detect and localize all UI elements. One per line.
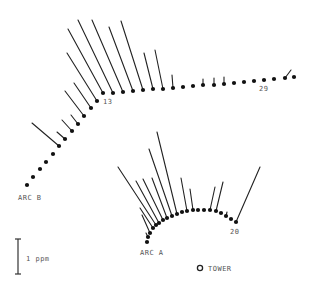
concentration-vector: [32, 123, 59, 146]
sample-point: [145, 240, 149, 244]
scale-bar-label: 1 ppm: [26, 255, 50, 263]
scale-bar: 1 ppm: [15, 239, 50, 274]
concentration-vector: [190, 189, 193, 210]
concentration-vector: [121, 21, 143, 90]
sample-point: [161, 218, 165, 222]
sample-point: [283, 76, 287, 80]
sample-point: [165, 216, 169, 220]
sample-point: [229, 217, 233, 221]
sample-point: [272, 77, 276, 81]
sample-point: [63, 137, 67, 141]
sample-point: [212, 83, 216, 87]
sample-point: [252, 79, 256, 83]
sample-point: [191, 84, 195, 88]
sample-point: [57, 144, 61, 148]
concentration-vector: [236, 167, 260, 222]
sample-point: [185, 209, 189, 213]
sample-point: [219, 211, 223, 215]
arc-b-point-label-13: 13: [103, 98, 112, 106]
concentration-vector: [216, 182, 223, 211]
sample-point: [242, 80, 246, 84]
open-circle-icon: [197, 265, 202, 270]
sample-point: [196, 208, 200, 212]
tower-label: TOWER: [208, 265, 232, 273]
sample-point: [146, 235, 150, 239]
sample-point: [181, 85, 185, 89]
concentration-vector: [210, 187, 215, 210]
sample-point: [131, 89, 135, 93]
concentration-vector: [62, 120, 72, 131]
sample-point: [157, 221, 161, 225]
sample-point: [208, 208, 212, 212]
sample-point: [95, 99, 99, 103]
sample-point: [44, 160, 48, 164]
sample-point: [224, 214, 228, 218]
arc-a-label: ARC A: [140, 249, 164, 257]
concentration-vector: [155, 50, 163, 89]
sample-point: [234, 220, 238, 224]
sample-point: [170, 214, 174, 218]
sample-point: [70, 129, 74, 133]
sample-point: [201, 83, 205, 87]
sample-point: [121, 90, 125, 94]
sample-point: [202, 208, 206, 212]
sample-point: [180, 210, 184, 214]
concentration-vector: [144, 53, 153, 89]
sample-point: [222, 82, 226, 86]
concentration-vector: [181, 178, 187, 211]
tower-marker: TOWER: [197, 265, 231, 273]
sample-point: [292, 75, 296, 79]
sample-point: [141, 88, 145, 92]
sample-point: [51, 152, 55, 156]
concentration-vector: [65, 91, 84, 116]
concentration-vector: [109, 27, 133, 91]
plume-vector-diagram: ARC B 13 29 ARC A 20 1 ppm TOWER: [0, 0, 310, 292]
sample-point: [191, 208, 195, 212]
sample-point: [151, 226, 155, 230]
sample-point: [151, 87, 155, 91]
sample-point: [262, 78, 266, 82]
sample-point: [111, 91, 115, 95]
arc-b-point-label-29: 29: [259, 85, 268, 93]
arc-a-point-label-20: 20: [230, 228, 239, 236]
sample-point: [171, 86, 175, 90]
arc-b-label: ARC B: [18, 194, 42, 202]
concentration-vector: [118, 167, 156, 225]
sample-point: [89, 106, 93, 110]
sample-point: [148, 231, 152, 235]
sample-point: [101, 91, 105, 95]
sample-point: [214, 209, 218, 213]
sample-point: [232, 81, 236, 85]
sample-point: [161, 87, 165, 91]
sample-point: [175, 212, 179, 216]
sample-point: [31, 175, 35, 179]
sample-point: [25, 183, 29, 187]
sample-point: [76, 122, 80, 126]
sample-point: [38, 167, 42, 171]
sample-point: [82, 114, 86, 118]
concentration-vector: [149, 149, 172, 216]
arc-b: [25, 20, 296, 187]
